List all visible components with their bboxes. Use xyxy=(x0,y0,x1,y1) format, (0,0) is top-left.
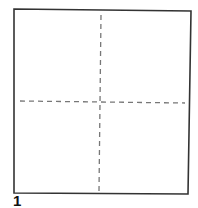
fold-diagram xyxy=(0,0,198,208)
horizontal-center-fold-line xyxy=(20,101,185,103)
vertical-center-fold-line xyxy=(99,15,101,191)
step-number-label: 1 xyxy=(13,193,21,208)
